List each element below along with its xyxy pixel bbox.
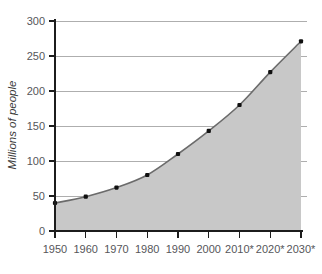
x-axis-tick-labels: 1950196019701980199020002010*2020*2030* — [43, 243, 316, 255]
data-point-marker — [84, 195, 88, 199]
x-axis-tick-label: 2030* — [287, 243, 316, 255]
x-axis-tick-label: 1990 — [166, 243, 190, 255]
x-axis-tick-label: 2020* — [256, 243, 285, 255]
data-point-marker — [176, 152, 180, 156]
x-axis-tick-label: 2000 — [197, 243, 221, 255]
data-point-marker — [114, 186, 118, 190]
data-point-marker — [299, 39, 303, 43]
x-axis-tick-label: 1960 — [74, 243, 98, 255]
y-axis-tick-label: 50 — [33, 190, 45, 202]
y-axis-tick-label: 100 — [27, 155, 45, 167]
y-axis-tick-label: 300 — [27, 15, 45, 27]
y-axis-tick-label: 200 — [27, 85, 45, 97]
data-point-marker — [237, 103, 241, 107]
x-axis-tick-label: 1950 — [43, 243, 67, 255]
data-point-marker — [268, 70, 272, 74]
x-axis-tick-label: 2010* — [225, 243, 254, 255]
chart-canvas: 050100150200250300 195019601970198019902… — [0, 0, 322, 274]
data-point-marker — [207, 129, 211, 133]
data-point-marker — [145, 173, 149, 177]
y-axis-tick-label: 250 — [27, 50, 45, 62]
x-axis-tick-label: 1970 — [104, 243, 128, 255]
y-axis-tick-label: 150 — [27, 120, 45, 132]
population-growth-area-chart: 050100150200250300 195019601970198019902… — [0, 0, 322, 274]
y-axis-tick-label: 0 — [39, 225, 45, 237]
x-axis-tick-label: 1980 — [135, 243, 159, 255]
y-axis-title: Millions of people — [6, 81, 18, 170]
